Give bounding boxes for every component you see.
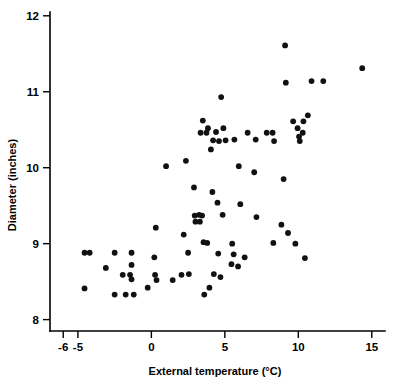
- data-point: [292, 241, 298, 247]
- data-point: [279, 222, 285, 228]
- data-point: [120, 272, 126, 278]
- data-point: [207, 285, 213, 291]
- data-point: [181, 232, 187, 238]
- y-tick-label: 12: [26, 10, 39, 22]
- y-tick-label: 9: [33, 238, 39, 250]
- data-point: [254, 214, 260, 220]
- y-tick-label: 8: [33, 314, 40, 326]
- data-point: [302, 255, 308, 261]
- x-tick-label: 10: [292, 341, 305, 353]
- data-point: [295, 125, 301, 131]
- data-point: [223, 137, 229, 143]
- data-point: [218, 274, 224, 280]
- data-point: [154, 277, 160, 283]
- data-point: [82, 250, 88, 256]
- data-point: [179, 272, 185, 278]
- data-point: [200, 118, 206, 124]
- data-point: [320, 78, 326, 84]
- data-point: [282, 43, 288, 49]
- data-point: [235, 264, 241, 270]
- x-tick-label: 0: [148, 341, 154, 353]
- data-point: [245, 130, 251, 136]
- data-point: [211, 271, 217, 277]
- x-ticks-layer: -6-5051015: [58, 331, 379, 353]
- data-point: [253, 137, 259, 143]
- data-point: [264, 130, 270, 136]
- data-point: [236, 163, 242, 169]
- data-point: [281, 176, 287, 182]
- data-point: [251, 169, 257, 175]
- data-point: [309, 78, 315, 84]
- data-point: [301, 118, 307, 124]
- data-point: [270, 240, 276, 246]
- data-point: [112, 250, 118, 256]
- data-point: [213, 129, 219, 135]
- data-point: [129, 262, 135, 268]
- data-point: [129, 276, 135, 282]
- y-tick-label: 10: [26, 162, 39, 174]
- data-point: [123, 292, 129, 298]
- data-point: [285, 230, 291, 236]
- data-point: [300, 130, 306, 136]
- y-tick-label: 11: [27, 86, 40, 98]
- data-point: [82, 286, 88, 292]
- data-point: [112, 292, 118, 298]
- data-point: [271, 138, 277, 144]
- data-point: [103, 265, 109, 271]
- data-point: [198, 130, 204, 136]
- data-point: [186, 271, 192, 277]
- data-point: [87, 250, 93, 256]
- data-point: [210, 137, 216, 143]
- x-tick-label: -6: [58, 341, 68, 353]
- data-point: [151, 254, 157, 260]
- data-point: [153, 225, 159, 231]
- data-point: [152, 272, 158, 278]
- data-point: [145, 285, 151, 291]
- x-tick-label: 5: [222, 341, 229, 353]
- data-point: [170, 277, 176, 283]
- data-point: [191, 185, 197, 191]
- data-point: [209, 189, 215, 195]
- data-point: [297, 138, 303, 144]
- data-point: [205, 125, 211, 131]
- data-point: [183, 158, 189, 164]
- data-point: [215, 200, 221, 206]
- data-point: [290, 118, 296, 124]
- data-point: [218, 94, 224, 100]
- data-point: [305, 112, 311, 118]
- data-point: [197, 219, 203, 225]
- data-point: [204, 240, 210, 246]
- data-point: [220, 212, 226, 218]
- y-ticks-layer: 89101112: [26, 10, 50, 326]
- data-point: [220, 125, 226, 131]
- data-point: [229, 261, 235, 267]
- data-point: [359, 65, 365, 71]
- axes-layer: [50, 12, 385, 331]
- x-tick-label: 15: [365, 341, 378, 353]
- data-point: [208, 147, 214, 153]
- data-point: [237, 201, 243, 207]
- x-axis-title: External temperature (°C): [149, 365, 282, 377]
- data-point: [242, 254, 248, 260]
- data-point: [201, 292, 207, 298]
- datapoints-layer: [82, 43, 366, 298]
- data-point: [199, 213, 205, 219]
- data-point: [229, 241, 235, 247]
- plot-canvas: 89101112 -6-5051015 External temperature…: [0, 0, 393, 386]
- data-point: [283, 80, 289, 86]
- scatter-plot-figure: 89101112 -6-5051015 External temperature…: [0, 0, 393, 386]
- data-point: [216, 138, 222, 144]
- data-point: [215, 251, 221, 257]
- data-point: [163, 163, 169, 169]
- data-point: [232, 137, 238, 143]
- y-axis-title: Diameter (inches): [6, 139, 18, 232]
- data-point: [231, 251, 237, 257]
- data-point: [131, 292, 137, 298]
- x-tick-label: -5: [73, 341, 84, 353]
- data-point: [129, 250, 135, 256]
- data-point: [185, 250, 191, 256]
- data-point: [270, 130, 276, 136]
